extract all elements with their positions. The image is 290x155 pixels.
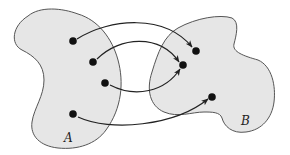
- point-b3: [208, 93, 216, 101]
- point-b1: [192, 47, 200, 55]
- point-a1: [69, 37, 77, 45]
- point-a3: [101, 79, 109, 87]
- point-a4: [69, 110, 77, 118]
- set-a-label: A: [64, 132, 73, 144]
- point-b2: [179, 61, 187, 69]
- diagram-canvas: [0, 0, 290, 155]
- set-b-region: [149, 16, 274, 132]
- mapping-diagram: A B: [0, 0, 290, 155]
- set-b-label: B: [241, 115, 250, 127]
- point-a2: [89, 58, 97, 66]
- set-a-region: [14, 9, 121, 148]
